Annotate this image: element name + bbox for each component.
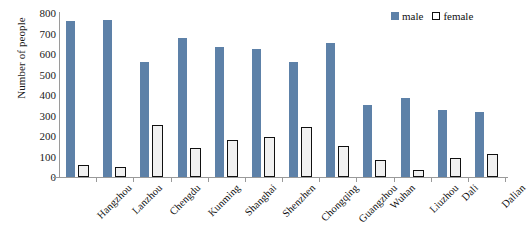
bar-group — [468, 13, 505, 177]
x-axis-tick — [319, 178, 320, 182]
x-axis-tick — [505, 178, 506, 182]
bar-female — [190, 148, 201, 177]
x-axis-tick — [208, 178, 209, 182]
bar-group — [356, 13, 393, 177]
x-axis-tick — [171, 178, 172, 182]
x-axis-tick — [282, 178, 283, 182]
x-axis-tick — [133, 178, 134, 182]
y-axis-tick-500: 500 — [26, 69, 56, 80]
x-axis-tick — [431, 178, 432, 182]
x-axis-tick — [356, 178, 357, 182]
x-axis-line — [53, 177, 508, 178]
bar-male — [475, 112, 484, 177]
bar-female — [450, 158, 461, 177]
x-axis-tick — [468, 178, 469, 182]
y-axis-tick-labels: 0100200300400500600700800 — [26, 0, 56, 185]
bar-female — [487, 154, 498, 177]
bar-male — [252, 49, 261, 177]
bar-group — [171, 13, 208, 177]
bar-group — [208, 13, 245, 177]
x-axis-label-hangzhou: Hangzhou — [95, 182, 134, 221]
x-axis-label-chengdu: Chengdu — [168, 182, 203, 217]
bar-male — [140, 62, 149, 177]
y-axis-tick-100: 100 — [26, 151, 56, 162]
x-axis-label-liuzhou: Liuzhou — [427, 182, 460, 215]
bar-female — [152, 125, 163, 177]
bar-female — [413, 170, 424, 177]
bar-female — [78, 165, 89, 177]
x-axis-tick — [245, 178, 246, 182]
chart-legend: malefemale — [391, 10, 473, 22]
x-axis-tick — [394, 178, 395, 182]
legend-item-female: female — [432, 10, 473, 22]
filled-square-icon — [391, 12, 399, 20]
x-axis-label-lanzhou: Lanzhou — [130, 182, 164, 216]
bar-female — [264, 137, 275, 177]
y-axis-tick-800: 800 — [26, 8, 56, 19]
bar-female — [115, 167, 126, 177]
outlined-square-icon — [432, 12, 440, 20]
bar-group — [394, 13, 431, 177]
x-axis-tick — [96, 178, 97, 182]
bar-male — [401, 98, 410, 177]
bar-female — [338, 146, 349, 177]
legend-label: female — [443, 10, 473, 22]
bar-male — [363, 105, 372, 177]
bar-male — [103, 20, 112, 177]
bar-female — [375, 160, 386, 177]
x-axis-label-shenzhen: Shenzhen — [280, 182, 317, 219]
x-axis-label-chongqing: Chongqing — [319, 182, 360, 223]
y-axis-tick-300: 300 — [26, 110, 56, 121]
bar-group — [59, 13, 96, 177]
bar-group — [96, 13, 133, 177]
y-axis-tick-200: 200 — [26, 131, 56, 142]
legend-item-male: male — [391, 10, 423, 22]
x-axis-label-dali: Dali — [459, 182, 480, 203]
bar-group — [282, 13, 319, 177]
y-axis-tick-600: 600 — [26, 49, 56, 60]
bar-female — [227, 140, 238, 177]
bar-male — [178, 38, 187, 177]
bar-group — [133, 13, 170, 177]
plot-area — [59, 13, 505, 177]
legend-label: male — [402, 10, 423, 22]
bar-male — [289, 62, 298, 177]
bar-male — [326, 43, 335, 177]
bar-female — [301, 127, 312, 177]
y-axis-tick-400: 400 — [26, 90, 56, 101]
x-axis-label-dalian: Dalian — [499, 182, 527, 210]
bar-group — [245, 13, 282, 177]
x-axis-label-kunming: Kunming — [205, 182, 241, 218]
bar-male — [66, 21, 75, 177]
bar-male — [438, 110, 447, 177]
y-axis-tick-700: 700 — [26, 28, 56, 39]
bar-group — [431, 13, 468, 177]
x-axis-label-shanghai: Shanghai — [242, 182, 278, 218]
bar-male — [215, 47, 224, 177]
y-axis-tick-0: 0 — [26, 172, 56, 183]
bar-group — [319, 13, 356, 177]
